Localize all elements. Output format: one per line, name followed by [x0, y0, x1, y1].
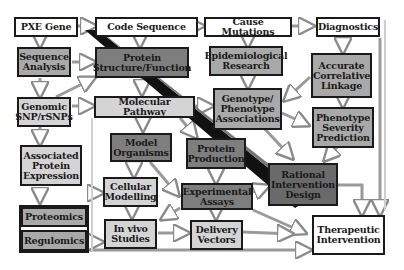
node-sequence-analysis: Sequence Analysis: [17, 47, 71, 77]
node-phenotype-severity: Phenotype Severity Prediction: [312, 107, 374, 148]
node-protein-structure-function: Protein Structure/Function: [95, 47, 189, 78]
node-therapeutic-intervention: Therapeutic Intervention: [312, 215, 385, 255]
node-in-vivo-studies: In vivo Studies: [104, 219, 157, 249]
node-pxe-gene: PXE Gene: [14, 17, 78, 37]
node-delivery-vectors: Delivery Vectors: [190, 220, 243, 250]
diagram-canvas: PXE Gene Code Sequence Cause Mutations D…: [0, 0, 404, 270]
node-genomic-snp: Genomic SNP/rSNPs: [17, 97, 71, 127]
node-associated-protein-expression: Associated Protein Expression: [20, 145, 82, 186]
node-experimental-assays: Experimental Assays: [181, 183, 253, 210]
node-cause-mutations: Cause Mutations: [204, 17, 292, 37]
node-model-organisms: Model Organisms: [110, 133, 172, 162]
node-epidemiological-research: Epidemiological Research: [209, 46, 283, 76]
node-rational-intervention-design: Rational Intervention Design: [268, 163, 338, 206]
node-protein-production: Protein Production: [186, 138, 246, 169]
node-regulomics: Regulomics: [21, 230, 87, 251]
node-code-sequence: Code Sequence: [95, 17, 198, 37]
node-proteomics: Proteomics: [21, 207, 87, 227]
node-cellular-modelling: Cellular Modelling: [103, 177, 158, 207]
node-molecular-pathway: Molecular Pathway: [94, 96, 195, 118]
node-genotype-phenotype: Genotype/ Phenotype Associations: [213, 88, 282, 130]
node-accurate-correlative-linkage: Accurate Correlative Linkage: [311, 53, 372, 98]
node-diagnostics: Diagnostics: [316, 17, 380, 37]
